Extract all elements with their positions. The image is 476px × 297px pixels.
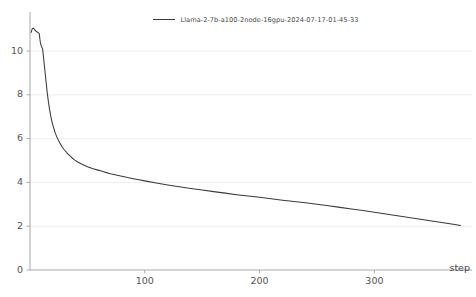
y-tick-label: 8 [17,88,23,99]
x-tick-label: 300 [365,275,383,286]
x-tick-label: 200 [251,275,269,286]
y-tick-label: 10 [11,45,23,56]
x-axis-title: step [449,262,470,273]
y-tick-label: 2 [17,220,23,231]
loss-chart: Llama-2-7b-a100-2node-16gpu-2024-07-17-0… [0,0,476,297]
y-tick-labels: 0246810 [11,45,23,275]
gridlines [30,51,472,226]
x-tick-labels: 100200300 [136,275,384,286]
y-tick-label: 0 [17,264,23,275]
plot-area: 0246810 100200300 step [0,0,476,297]
series-lines [31,28,460,226]
y-tick-label: 6 [17,132,23,143]
y-tick-label: 4 [17,176,23,187]
series-line [31,28,460,226]
x-tick-label: 100 [136,275,154,286]
